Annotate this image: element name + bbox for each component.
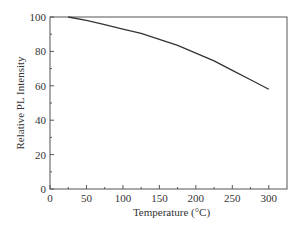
data-line (68, 17, 269, 89)
x-tick-label: 150 (151, 192, 168, 204)
x-tick-label: 100 (115, 192, 132, 204)
x-axis-label: Temperature (°C) (133, 206, 211, 219)
x-tick-label: 250 (224, 192, 241, 204)
y-tick-label: 100 (30, 11, 47, 23)
x-tick-label: 200 (188, 192, 205, 204)
y-tick-label: 80 (35, 45, 47, 57)
x-tick-label: 50 (81, 192, 93, 204)
y-tick-label: 0 (41, 183, 47, 195)
x-tick-label: 0 (47, 192, 53, 204)
y-tick-label: 20 (35, 149, 47, 161)
y-tick-label: 40 (35, 114, 47, 126)
x-tick-label: 300 (261, 192, 278, 204)
y-axis-label: Relative PL Intensity (14, 56, 26, 150)
line-chart: 050100150200250300020406080100Temperatur… (0, 0, 303, 229)
y-tick-label: 60 (35, 80, 47, 92)
